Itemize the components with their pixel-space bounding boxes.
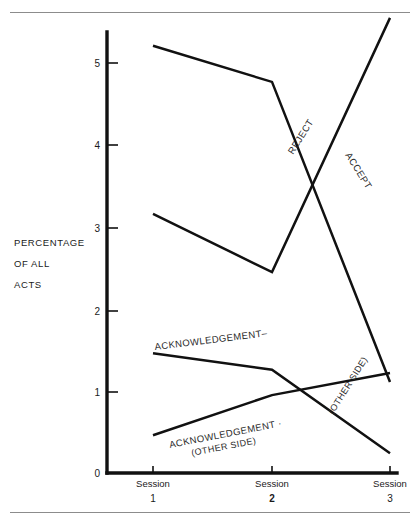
y-tick-label-2: 2	[94, 306, 100, 317]
y-tick-label-4: 4	[94, 140, 100, 151]
y-tick-label-3: 3	[94, 223, 100, 234]
series-lines	[153, 18, 390, 453]
annotation-acknowledgement: ACKNOWLEDGEMENT–	[154, 327, 268, 352]
figure-container: 0 1 2 3 4 5 Session 1 Session 2 Session …	[0, 0, 417, 525]
x-tick-label-session-3-num: 3	[387, 493, 393, 504]
series-annotations: REJECTACCEPTACKNOWLEDGEMENT–ACKNOWLEDGEM…	[154, 117, 374, 458]
y-tick-label-1: 1	[94, 387, 100, 398]
x-tick-label-session-2-num: 2	[269, 493, 275, 504]
annotation-other-side: (OTHER SIDE)	[326, 355, 369, 416]
y-axis-title-line-2: OF ALL	[14, 258, 50, 269]
annotation-accept: ACCEPT	[343, 150, 374, 191]
line-chart: 0 1 2 3 4 5 Session 1 Session 2 Session …	[0, 0, 417, 525]
y-tick-label-5: 5	[94, 58, 100, 69]
y-axis-title-line-3: ACTS	[14, 279, 42, 290]
y-tick-label-0: 0	[94, 468, 100, 479]
x-tick-label-session-1-top: Session	[136, 478, 170, 489]
x-tick-label-session-1-num: 1	[150, 493, 156, 504]
annotation-reject: REJECT	[285, 117, 315, 156]
y-axis-title-line-1: PERCENTAGE	[14, 237, 85, 248]
x-tick-label-session-2-top: Session	[255, 478, 289, 489]
x-tick-label-session-3-top: Session	[373, 478, 407, 489]
